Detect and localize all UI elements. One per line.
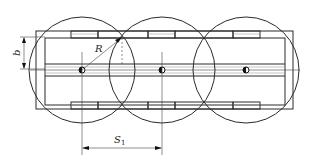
spacing-dimension: S 1 xyxy=(82,134,162,150)
center-marker-3 xyxy=(243,67,249,73)
coverage-diagram: R b S 1 xyxy=(0,0,309,163)
radius-label: R xyxy=(94,43,103,54)
width-dimension: b xyxy=(11,37,45,69)
radius-dimension: R xyxy=(82,37,122,70)
width-label: b xyxy=(11,50,22,56)
spacing-label-subscript: 1 xyxy=(121,139,125,147)
top-strip xyxy=(71,31,260,38)
spacing-label: S xyxy=(114,134,121,145)
